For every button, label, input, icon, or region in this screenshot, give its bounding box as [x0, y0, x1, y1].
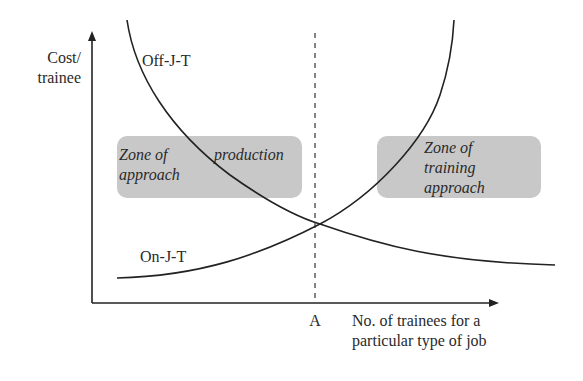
break-even-label: A: [309, 312, 321, 329]
y-axis-label-line2: trainee: [37, 69, 81, 86]
y-axis-arrow-icon: [88, 31, 96, 41]
zone-training-label-1: Zone of: [424, 139, 475, 157]
zone-training-label-2: training: [424, 159, 476, 177]
zone-training-label-3: approach: [424, 179, 485, 197]
y-axis-label-line1: Cost/: [47, 49, 81, 66]
on-jt-label: On-J-T: [140, 248, 186, 265]
cost-per-trainee-diagram: Zone of production approach Zone of trai…: [0, 0, 583, 381]
x-axis-arrow-icon: [489, 299, 499, 307]
zone-production-label-2: production: [213, 146, 284, 164]
x-axis-label-line2: particular type of job: [352, 332, 487, 350]
x-axis-label-line1: No. of trainees for a: [352, 312, 480, 329]
zone-production-label-1: Zone of: [119, 146, 170, 164]
zone-production-label-3: approach: [119, 166, 180, 184]
off-jt-label: Off-J-T: [142, 52, 191, 69]
